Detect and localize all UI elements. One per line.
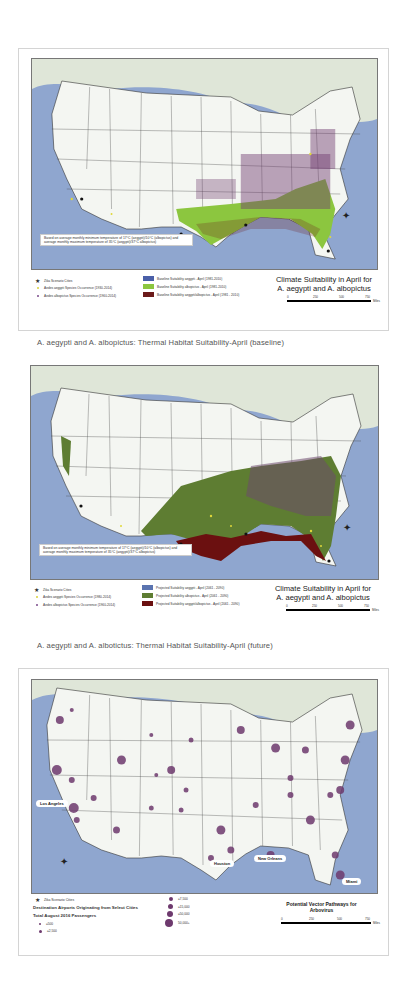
north-arrow-icon: ✦ xyxy=(60,856,68,867)
purple-dot-icon xyxy=(167,911,173,917)
maroon-swatch xyxy=(143,292,154,297)
map-title: Climate Suitability in April forA. aegyp… xyxy=(268,584,378,602)
star-icon: ★ xyxy=(35,278,40,284)
legend-class-500: ≤500 xyxy=(37,922,53,926)
us-map-pathways: ✦ xyxy=(32,680,377,893)
legend-item-suit-both: Baseline Suitability aegypti/albopictus … xyxy=(143,292,239,297)
legend-item-aegypti-occurrence: Aedes aegypti Species Occurrence (1930-2… xyxy=(35,286,112,290)
map-pathways: ✦ Los Angeles Houston New Orleans Miami xyxy=(31,679,378,894)
scale-bar: 0250500750 Miles xyxy=(287,295,383,305)
legend-item-albopictus-occurrence: Aedes albopictus Species Occurrence (196… xyxy=(34,603,115,607)
map-future: ✦ Based on average monthly minimum tempe… xyxy=(30,365,379,580)
legend-item-albopictus-occurrence: Aedes albopictus Species Occurrence (196… xyxy=(35,294,116,298)
purple-dot-icon xyxy=(39,930,42,933)
legend-baseline: ★Zika Scenario Cities Aedes aegypti Spec… xyxy=(19,273,388,323)
scale-bar: 0250500750 Miles xyxy=(281,917,377,927)
city-label-new-orleans: New Orleans xyxy=(254,855,286,862)
legend-item-zika-cities: ★Zika Scenario Cities xyxy=(35,897,74,903)
north-arrow-icon: ✦ xyxy=(342,210,350,221)
blue-swatch xyxy=(143,276,154,281)
legend-item-zika-cities: ★Zika Scenario Cities xyxy=(34,587,71,593)
purple-dot-icon xyxy=(165,919,173,927)
north-arrow-icon: ✦ xyxy=(343,522,351,533)
city-label-houston: Houston xyxy=(210,860,234,867)
map-baseline: ✦ Based on average monthly minimum tempe… xyxy=(31,58,378,270)
legend-class-2500: ≤2,500 xyxy=(37,929,57,933)
legend-heading-destinations: Destination Airports Originating from Se… xyxy=(33,905,138,910)
yellow-dot-icon xyxy=(37,287,39,289)
blue-swatch xyxy=(142,585,153,590)
scale-bar: 0250500750 Miles xyxy=(286,604,382,614)
legend-pathways: ★Zika Scenario Cities Destination Airpor… xyxy=(19,895,388,950)
panel-future: ✦ Based on average monthly minimum tempe… xyxy=(18,360,389,660)
purple-dot-icon xyxy=(169,897,173,901)
city-label-los-angeles: Los Angeles xyxy=(36,800,68,807)
legend-item-zika-cities: ★Zika Scenario Cities xyxy=(35,278,72,284)
panel-baseline: ✦ Based on average monthly minimum tempe… xyxy=(18,48,389,331)
map-note: Based on average monthly minimum tempera… xyxy=(39,544,192,556)
green-swatch xyxy=(143,284,154,289)
legend-item-proj-aegypti: Projected Suitability aegypti - April (2… xyxy=(142,585,224,590)
green-swatch xyxy=(142,593,153,598)
yellow-dot-icon xyxy=(36,596,38,598)
purple-dot-icon xyxy=(36,604,38,606)
legend-item-suit-aegypti: Baseline Suitability aegypti - April (19… xyxy=(143,276,222,281)
caption-future: A. aegypti and A. albotictus: Thermal Ha… xyxy=(37,641,273,650)
purple-dot-icon xyxy=(39,923,41,925)
star-icon: ★ xyxy=(35,897,40,903)
map-note: Based on average monthly minimum tempera… xyxy=(40,234,193,246)
caption-baseline: A. aegypti and A. albopictus: Thermal Ha… xyxy=(37,338,284,347)
legend-future: ★Zika Scenario Cities Aedes aegypti Spec… xyxy=(18,582,389,632)
legend-class-50000-plus: 50,000+ xyxy=(163,919,190,927)
legend-heading-passengers: Total August 2016 Passengers xyxy=(33,913,96,918)
legend-item-proj-both: Projected Suitability aegypti/albopictus… xyxy=(142,601,239,606)
map-title: Potential Vector Pathways forArbovirus xyxy=(274,901,369,913)
purple-dot-icon xyxy=(37,295,39,297)
maroon-swatch xyxy=(142,601,153,606)
map-title: Climate Suitability in April forA. aegyp… xyxy=(269,275,379,293)
legend-class-15000: ≤15,000 xyxy=(166,904,190,909)
city-label-miami: Miami xyxy=(342,878,361,885)
legend-item-aegypti-occurrence: Aedes aegypti Species Occurrence (1980-2… xyxy=(34,595,111,599)
legend-item-suit-albopictus: Baseline Suitability albopictus - April … xyxy=(143,284,226,289)
purple-dot-icon xyxy=(168,904,173,909)
star-icon: ★ xyxy=(34,587,39,593)
legend-item-proj-albopictus: Projected Suitability albopictus - April… xyxy=(142,593,228,598)
panel-pathways: ✦ Los Angeles Houston New Orleans Miami … xyxy=(18,668,389,956)
legend-class-50000: ≤50,000 xyxy=(165,911,190,917)
legend-class-7500: ≤7,500 xyxy=(167,897,188,901)
